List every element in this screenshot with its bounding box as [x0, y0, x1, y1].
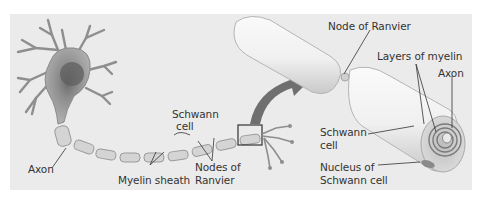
- myelin-segments: [54, 125, 261, 162]
- axon-core: [443, 133, 452, 143]
- label-schwann-cell-right-2: cell: [320, 139, 338, 151]
- label-nodes-of-ranvier-2: Ranvier: [195, 174, 234, 186]
- label-layers-of-myelin: Layers of myelin: [377, 50, 462, 62]
- axon-terminals: [262, 126, 292, 168]
- label-schwann-cell-left-1: Schwann: [172, 108, 219, 120]
- neuron-illustration: [0, 0, 484, 199]
- label-axon-left: Axon: [28, 163, 54, 175]
- label-axon-right: Axon: [438, 67, 464, 79]
- label-myelin-sheath: Myelin sheath: [118, 174, 190, 186]
- label-schwann-cell-right-1: Schwann: [320, 126, 367, 138]
- label-schwann-cell-left-2: cell: [176, 120, 194, 132]
- label-nodes-of-ranvier-1: Nodes of: [195, 161, 241, 173]
- label-node-of-ranvier: Node of Ranvier: [328, 20, 411, 32]
- nucleus: [60, 62, 84, 86]
- label-nucleus-schwann-2: Schwann cell: [320, 174, 388, 186]
- label-nucleus-schwann-1: Nucleus of: [320, 161, 374, 173]
- cell-body: [45, 48, 90, 124]
